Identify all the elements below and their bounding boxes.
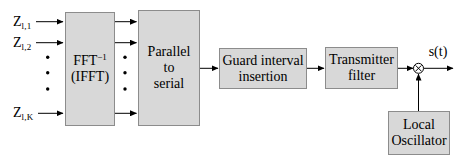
vertical-ellipsis-ifft-p2s [123, 56, 126, 91]
ifft-block: FFT−1 (IFFT) [65, 12, 115, 126]
multiplier-icon [414, 63, 424, 73]
input-label-z-l2: Zl,2 [13, 35, 31, 52]
ofdm-transmitter-diagram: Zl,1 Zl,2 Zl,K FFT−1 (IFFT) Parallel to … [0, 0, 466, 160]
input-label-z-lk: Zl,K [13, 105, 33, 122]
ifft-block-line1: FFT−1 [73, 53, 107, 69]
ifft-exponent: −1 [97, 52, 107, 62]
input-label-z-l2-sub: l,2 [22, 42, 32, 52]
p2s-line1: Parallel [148, 44, 191, 60]
p2s-line3: serial [154, 76, 184, 92]
lo-line1: Local [403, 117, 435, 133]
output-signal-label: s(t) [424, 44, 452, 60]
vertical-ellipsis-inputs [46, 56, 49, 91]
p2s-line2: to [164, 60, 175, 76]
tx-line1: Transmitter [329, 52, 394, 68]
transmitter-filter-block: Transmitter filter [325, 47, 398, 89]
input-label-z-l1-sub: l,1 [22, 21, 32, 31]
ifft-block-line2: (IFFT) [71, 69, 109, 85]
local-oscillator-block: Local Oscillator [388, 111, 450, 155]
guard-line1: Guard interval [222, 53, 303, 69]
input-label-z-lk-main: Z [13, 105, 22, 120]
input-label-z-l2-main: Z [13, 35, 22, 50]
input-label-z-l1-main: Z [13, 14, 22, 29]
input-label-z-lk-sub: l,K [22, 112, 34, 122]
parallel-to-serial-block: Parallel to serial [138, 10, 200, 126]
tx-line2: filter [348, 68, 375, 84]
guard-interval-insertion-block: Guard interval insertion [219, 48, 307, 89]
input-label-z-l1: Zl,1 [13, 14, 31, 31]
guard-line2: insertion [239, 69, 288, 85]
lo-line2: Oscillator [391, 133, 446, 149]
